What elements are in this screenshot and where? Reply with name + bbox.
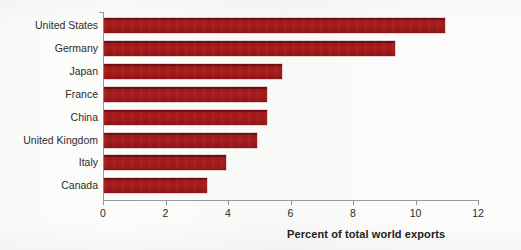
x-axis-title: Percent of total world exports xyxy=(287,228,445,240)
bar-united-kingdom xyxy=(104,133,257,148)
bar-row xyxy=(103,155,478,170)
x-tick-label-12: 12 xyxy=(472,207,484,219)
category-label-united-states: United States xyxy=(35,18,98,33)
x-tick-8 xyxy=(353,201,354,205)
x-tick-label-4: 4 xyxy=(225,207,231,219)
x-tick-4 xyxy=(228,201,229,205)
bar-united-states xyxy=(104,18,445,33)
x-tick-0 xyxy=(103,201,104,205)
bar-row xyxy=(103,178,478,193)
category-label-germany: Germany xyxy=(55,41,98,56)
bar-row xyxy=(103,87,478,102)
x-tick-6 xyxy=(291,201,292,205)
bar-row xyxy=(103,133,478,148)
bar-row xyxy=(103,64,478,79)
bar-row xyxy=(103,18,478,33)
category-label-china: China xyxy=(71,110,98,125)
category-label-france: France xyxy=(65,87,98,102)
bar-germany xyxy=(104,41,395,56)
x-tick-label-6: 6 xyxy=(288,207,294,219)
bar-china xyxy=(104,110,267,125)
x-tick-label-10: 10 xyxy=(410,207,422,219)
bar-row xyxy=(103,41,478,56)
x-tick-10 xyxy=(416,201,417,205)
x-tick-label-0: 0 xyxy=(100,207,106,219)
category-axis-labels: United StatesGermanyJapanFranceChinaUnit… xyxy=(0,12,98,200)
bar-japan xyxy=(104,64,282,79)
category-label-canada: Canada xyxy=(61,178,98,193)
x-tick-label-2: 2 xyxy=(163,207,169,219)
category-label-united-kingdom: United Kingdom xyxy=(23,133,98,148)
bar-italy xyxy=(104,155,226,170)
bar-chart-figure: United StatesGermanyJapanFranceChinaUnit… xyxy=(0,0,521,250)
category-label-japan: Japan xyxy=(69,64,98,79)
x-tick-12 xyxy=(478,201,479,205)
x-tick-label-8: 8 xyxy=(350,207,356,219)
y-axis-top-tick xyxy=(99,12,103,13)
bar-canada xyxy=(104,178,207,193)
bar-row xyxy=(103,110,478,125)
x-tick-2 xyxy=(166,201,167,205)
bar-france xyxy=(104,87,267,102)
category-label-italy: Italy xyxy=(79,155,98,170)
plot-area: 024681012 xyxy=(103,12,478,200)
